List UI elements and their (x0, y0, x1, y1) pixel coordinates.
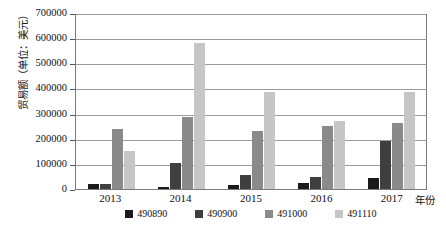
legend-label: 490890 (137, 208, 167, 219)
bar-491110-2016 (334, 121, 345, 189)
bar-group (356, 15, 426, 189)
y-tick-label: 700000 (7, 8, 67, 19)
bar-491110-2015 (264, 92, 275, 189)
legend-swatch-icon (195, 210, 203, 218)
bar-490900-2016 (310, 177, 321, 189)
bar-chart: 贸易额（单位：美元） 01000002000003000004000005000… (0, 0, 446, 227)
bar-490890-2017 (368, 178, 379, 189)
y-tick-label: 200000 (7, 134, 67, 145)
bar-group (286, 15, 356, 189)
bar-490890-2016 (298, 183, 309, 189)
y-tick-label: 100000 (7, 159, 67, 170)
legend-swatch-icon (335, 210, 343, 218)
bar-491000-2013 (112, 129, 123, 189)
legend-item-490900: 490900 (195, 208, 237, 219)
legend-item-490890: 490890 (125, 208, 167, 219)
legend-label: 491000 (277, 208, 307, 219)
bar-group (216, 15, 286, 189)
bar-491110-2017 (404, 92, 415, 189)
chart-legend: 490890490900491000491110 (75, 208, 427, 219)
bar-490890-2013 (88, 184, 99, 189)
x-tick-label: 2015 (216, 192, 286, 204)
y-tick-label: 500000 (7, 58, 67, 69)
x-tick-label: 2013 (75, 192, 145, 204)
x-axis-title: 年份 (415, 192, 435, 207)
y-tick-label: 300000 (7, 109, 67, 120)
plot-area (75, 14, 427, 190)
legend-swatch-icon (125, 210, 133, 218)
bar-490890-2014 (158, 187, 169, 190)
x-tick-label: 2016 (286, 192, 356, 204)
bar-490900-2014 (170, 163, 181, 189)
bar-groups (76, 15, 426, 189)
y-tick-label: 600000 (7, 33, 67, 44)
x-tick-label: 2014 (145, 192, 215, 204)
bar-491000-2015 (252, 131, 263, 189)
y-tick-label: 0 (7, 184, 67, 195)
bar-491110-2014 (194, 43, 205, 189)
bar-group (146, 15, 216, 189)
x-axis-tick-labels: 20132014201520162017 (75, 192, 427, 204)
bar-group (76, 15, 146, 189)
bar-490900-2017 (380, 141, 391, 189)
bar-491110-2013 (124, 151, 135, 189)
legend-label: 491110 (347, 208, 376, 219)
bar-491000-2017 (392, 123, 403, 189)
bar-491000-2016 (322, 126, 333, 189)
y-tick-label: 400000 (7, 83, 67, 94)
bar-490900-2015 (240, 175, 251, 189)
bar-491000-2014 (182, 117, 193, 189)
bar-490900-2013 (100, 184, 111, 189)
legend-label: 490900 (207, 208, 237, 219)
bar-490890-2015 (228, 185, 239, 189)
legend-item-491000: 491000 (265, 208, 307, 219)
legend-item-491110: 491110 (335, 208, 376, 219)
y-tick-mark (70, 190, 75, 191)
legend-swatch-icon (265, 210, 273, 218)
